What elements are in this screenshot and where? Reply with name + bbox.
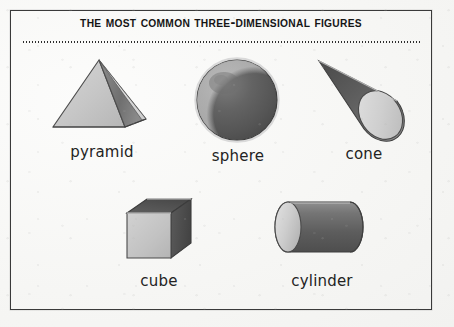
figure-pyramid[interactable]: pyramid xyxy=(22,57,182,161)
figure-cube[interactable]: cube xyxy=(84,196,234,290)
figure-cone[interactable]: cone xyxy=(298,57,430,163)
cube-shape-slot xyxy=(123,196,195,264)
cube-icon xyxy=(123,196,195,264)
figure-label-cube: cube xyxy=(84,272,234,290)
pyramid-shape-slot xyxy=(47,57,157,137)
sphere-shape-slot xyxy=(194,57,282,145)
title-block: The Most Common Three-dimensional Figure… xyxy=(12,12,430,32)
figure-cylinder[interactable]: cylinder xyxy=(238,196,406,290)
figure-label-pyramid: pyramid xyxy=(22,143,182,161)
figure-label-cylinder: cylinder xyxy=(238,272,406,290)
figure-label-sphere: sphere xyxy=(176,147,300,165)
title-divider xyxy=(22,41,420,43)
cylinder-shape-slot xyxy=(272,196,372,258)
page-title: The Most Common Three-dimensional Figure… xyxy=(27,12,416,32)
figure-label-cone: cone xyxy=(298,145,430,163)
worksheet-page: The Most Common Three-dimensional Figure… xyxy=(0,0,454,327)
pyramid-icon xyxy=(47,57,157,137)
figure-sphere[interactable]: sphere xyxy=(176,57,300,165)
cylinder-icon xyxy=(272,196,372,258)
sphere-icon xyxy=(194,57,282,145)
cone-icon xyxy=(314,57,414,139)
cone-shape-slot xyxy=(314,57,414,139)
